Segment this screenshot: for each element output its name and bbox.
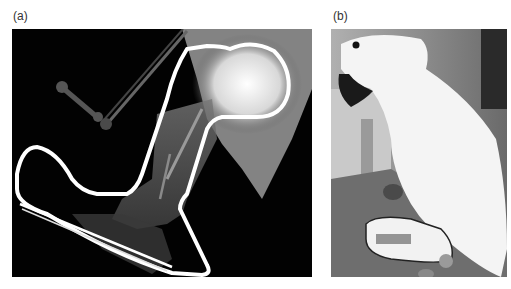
panel-a-label: (a): [13, 10, 28, 22]
xray-image: [12, 29, 312, 277]
cockatoo-photo: [331, 29, 507, 277]
panel-b-label: (b): [333, 10, 348, 22]
